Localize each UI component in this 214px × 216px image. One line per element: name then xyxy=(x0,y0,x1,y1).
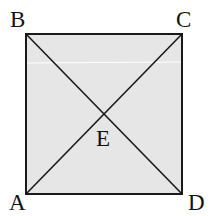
intersection-label-e: E xyxy=(96,126,110,151)
vertex-label-d: D xyxy=(188,190,205,215)
vertex-label-a: A xyxy=(9,190,26,215)
square-diagram: B C A D E xyxy=(0,0,214,216)
vertex-label-b: B xyxy=(10,7,25,32)
vertex-label-c: C xyxy=(176,7,191,32)
